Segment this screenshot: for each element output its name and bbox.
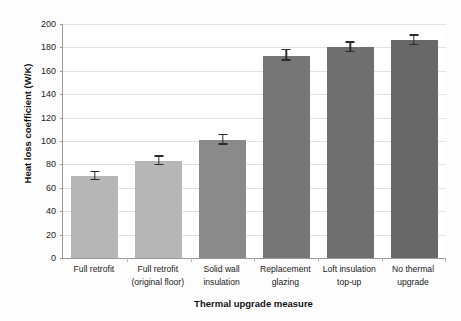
x-tick-label: Replacementglazing <box>253 263 317 297</box>
bar-slot <box>318 24 382 258</box>
bar[interactable] <box>263 56 310 258</box>
y-tick-label: 20 <box>46 230 56 240</box>
x-tick-label: Loft insulationtop-up <box>317 263 381 297</box>
x-tick-mark <box>127 258 128 262</box>
x-tick-label: No thermalupgrade <box>381 263 445 297</box>
error-bar-cap-upper <box>90 171 99 172</box>
x-axis-tick-labels: Full retrofitFull retrofit(original floo… <box>62 263 445 297</box>
y-tick-label: 80 <box>46 159 56 169</box>
y-axis-tick-labels: 020406080100120140160180200 <box>22 0 60 321</box>
bar[interactable] <box>135 161 182 258</box>
x-tick-label: Solid wallinsulation <box>190 263 254 297</box>
y-tick-label: 160 <box>41 66 56 76</box>
error-bar-cap-upper <box>346 41 355 42</box>
bar-slot <box>63 24 127 258</box>
y-tick-label: 100 <box>41 136 56 146</box>
x-tick-mark <box>445 258 446 262</box>
error-bar-cap-upper <box>154 155 163 156</box>
error-bar-cap-lower <box>154 164 163 165</box>
bar-slot <box>254 24 318 258</box>
bar-chart-figure: Heat loss coefficient (W/K) 020406080100… <box>0 0 461 321</box>
error-bar-cap-lower <box>90 179 99 180</box>
error-bar-cap-lower <box>410 44 419 45</box>
bar[interactable] <box>391 40 438 258</box>
error-bar-cap-lower <box>346 51 355 52</box>
y-tick-label: 120 <box>41 113 56 123</box>
error-bar-cap-upper <box>218 134 227 135</box>
bar-slot <box>127 24 191 258</box>
x-tick-mark <box>318 258 319 262</box>
error-bar-cap-lower <box>282 59 291 60</box>
y-tick-label: 0 <box>51 253 56 263</box>
x-tick-mark <box>382 258 383 262</box>
bar[interactable] <box>327 47 374 258</box>
bar[interactable] <box>71 176 118 258</box>
y-tick-label: 40 <box>46 206 56 216</box>
y-tick-label: 200 <box>41 19 56 29</box>
bar-series <box>63 24 446 258</box>
bar[interactable] <box>199 140 246 258</box>
x-tick-mark <box>254 258 255 262</box>
error-bar-cap-lower <box>218 143 227 144</box>
x-axis-title: Thermal upgrade measure <box>62 298 445 309</box>
x-tick-label: Full retrofit(original floor) <box>126 263 190 297</box>
error-bar-cap-upper <box>410 34 419 35</box>
y-tick-label: 60 <box>46 183 56 193</box>
y-tick-label: 140 <box>41 89 56 99</box>
bar-slot <box>191 24 255 258</box>
y-tick-label: 180 <box>41 42 56 52</box>
error-bar-cap-upper <box>282 49 291 50</box>
x-tick-mark <box>191 258 192 262</box>
plot-area <box>62 24 445 258</box>
x-tick-label: Full retrofit <box>62 263 126 297</box>
bar-slot <box>382 24 446 258</box>
